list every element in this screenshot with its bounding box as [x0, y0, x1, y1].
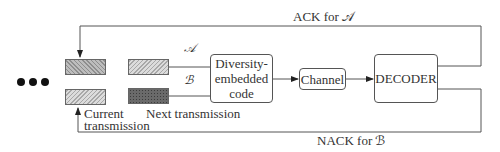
next-a-block: [128, 59, 169, 75]
dot-icon: [41, 78, 49, 86]
dot-icon: [29, 78, 37, 86]
decoder-label: DECODER: [375, 71, 436, 86]
next-transmission-label: Next transmission: [146, 107, 240, 121]
decoder-block: DECODER: [374, 54, 438, 103]
channel-label: Channel: [301, 72, 344, 87]
stream-a-label: 𝒜: [184, 41, 195, 55]
current-a-block: [65, 59, 106, 75]
dot-icon: [17, 78, 25, 86]
diversity-code-label-3: code: [215, 86, 268, 101]
nack-label: NACK for ℬ: [317, 134, 386, 148]
current-transmission-label-2: transmission: [84, 119, 150, 133]
diversity-code-label-2: embedded: [215, 71, 268, 86]
stream-b-label: ℬ: [184, 73, 193, 87]
diversity-code-label-1: Diversity-: [215, 56, 268, 71]
current-b-block: [65, 89, 106, 105]
diversity-embedded-code-block: Diversity- embedded code: [210, 54, 273, 103]
channel-block: Channel: [299, 68, 346, 90]
ack-label: ACK for 𝒜: [293, 10, 354, 24]
next-b-block: [128, 88, 169, 104]
